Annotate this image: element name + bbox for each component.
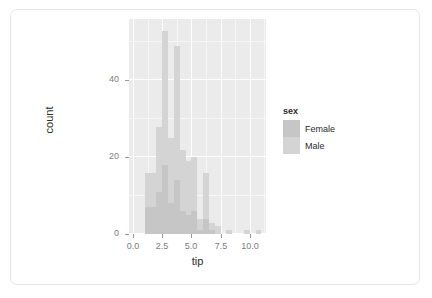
legend-key-swatch	[283, 137, 300, 154]
y-axis-title: count	[43, 60, 55, 180]
plot-panel	[129, 19, 266, 234]
gridline-x-major	[250, 19, 251, 234]
legend-item-label: Female	[305, 124, 335, 134]
bar-segment-male	[191, 157, 197, 211]
gridline-x-major	[221, 19, 222, 234]
x-tick-mark	[133, 234, 134, 238]
y-tick-label: 40	[89, 74, 119, 84]
legend: sex FemaleMale	[283, 106, 335, 154]
x-tick-mark	[221, 234, 222, 238]
y-tick-label: 20	[89, 151, 119, 161]
y-tick-mark	[125, 157, 129, 158]
y-tick-mark	[125, 80, 129, 81]
bar-segment-male	[244, 230, 250, 234]
gridline-y-major	[129, 156, 266, 157]
histogram-bar	[256, 230, 262, 234]
bar-segment-male	[203, 173, 209, 219]
x-tick-mark	[250, 234, 251, 238]
gridline-y-major	[129, 79, 266, 80]
histogram-bar	[244, 230, 250, 234]
histogram-bar	[226, 230, 232, 234]
y-tick-label: 0	[89, 228, 119, 238]
gridline-x-minor	[264, 19, 265, 234]
bar-segment-male	[256, 230, 262, 234]
bar-segment-male	[226, 230, 232, 234]
x-tick-mark	[162, 234, 163, 238]
chart-card: 02040 0.02.55.07.510.0 tip count sex Fem…	[10, 9, 420, 285]
legend-key-swatch	[283, 120, 300, 137]
gridline-x-major	[133, 19, 134, 234]
gridline-y-minor	[129, 118, 266, 119]
y-tick-mark	[125, 234, 129, 235]
x-axis-title: tip	[129, 255, 266, 267]
x-tick-mark	[191, 234, 192, 238]
legend-item[interactable]: Male	[283, 137, 335, 154]
legend-title: sex	[283, 106, 335, 116]
bar-segment-male	[215, 226, 221, 234]
histogram-figure: 02040 0.02.55.07.510.0 tip count sex Fem…	[11, 10, 421, 286]
x-tick-label: 10.0	[230, 241, 270, 251]
gridline-x-minor	[235, 19, 236, 234]
legend-item[interactable]: Female	[283, 120, 335, 137]
legend-items: FemaleMale	[283, 120, 335, 154]
histogram-bar	[215, 226, 221, 234]
legend-item-label: Male	[305, 141, 325, 151]
gridline-y-minor	[129, 41, 266, 42]
